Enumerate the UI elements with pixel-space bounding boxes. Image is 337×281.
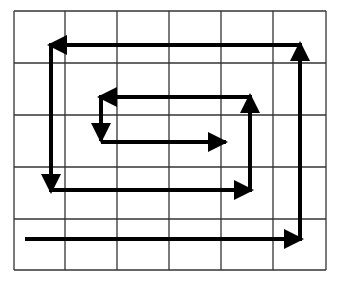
spiral-path — [27, 45, 300, 239]
spiral-diagram — [0, 0, 337, 281]
grid-with-spiral-arrows — [0, 0, 337, 281]
